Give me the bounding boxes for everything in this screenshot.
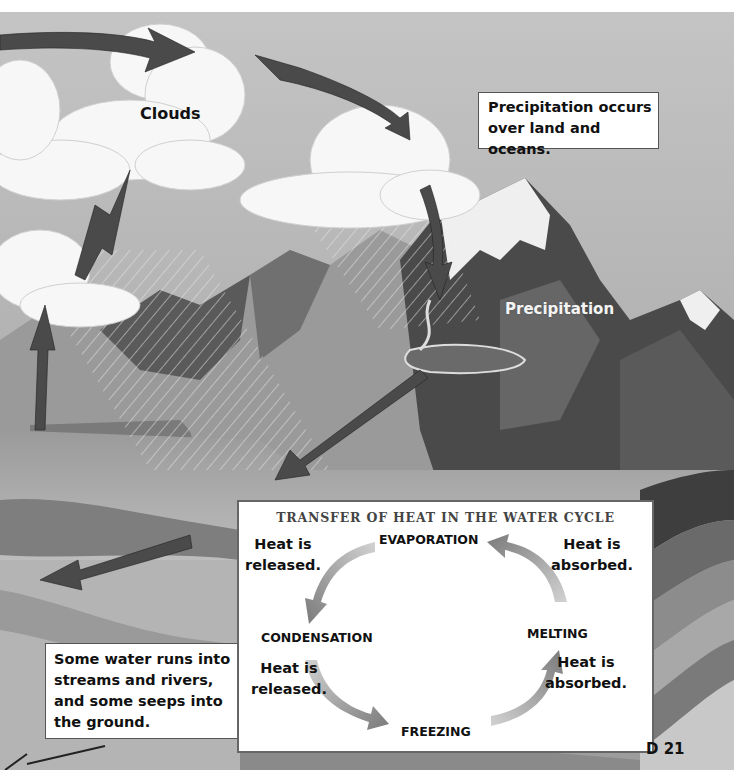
heat-note-line: Heat is <box>545 652 627 673</box>
precipitation-callout: Precipitation occurs over land and ocean… <box>478 92 659 149</box>
stage-melting: MELTING <box>527 626 588 641</box>
heat-note-line: Heat is <box>551 534 633 555</box>
heat-note-line: absorbed. <box>545 673 627 694</box>
heat-note-line: Heat is <box>251 658 327 679</box>
heat-note-evap-to-cond: Heat is released. <box>245 534 321 576</box>
precipitation-label: Precipitation <box>505 300 614 318</box>
runoff-callout: Some water runs into streams and rivers,… <box>45 643 239 739</box>
heat-note-line: released. <box>245 555 321 576</box>
heat-note-cond-to-freeze: Heat is released. <box>251 658 327 700</box>
heat-note-melt-to-evap: Heat is absorbed. <box>551 534 633 576</box>
stage-freezing: FREEZING <box>401 724 471 739</box>
heat-note-line: Heat is <box>245 534 321 555</box>
callout-line: streams and rivers, <box>54 670 232 691</box>
callout-line: over land and oceans. <box>488 118 652 160</box>
stage-condensation: CONDENSATION <box>261 630 373 645</box>
heat-note-freeze-to-melt: Heat is absorbed. <box>545 652 627 694</box>
clouds-label: Clouds <box>140 104 201 123</box>
page-number: D 21 <box>646 740 685 758</box>
heat-note-line: released. <box>251 679 327 700</box>
heat-note-line: absorbed. <box>551 555 633 576</box>
stage-evaporation: EVAPORATION <box>379 532 478 547</box>
callout-line: Some water runs into <box>54 649 232 670</box>
callout-line: the ground. <box>54 712 232 733</box>
heat-transfer-diagram: TRANSFER OF HEAT IN THE WATER CYCLE EVAP… <box>237 500 654 753</box>
callout-line: and some seeps into <box>54 691 232 712</box>
callout-line: Precipitation occurs <box>488 97 652 118</box>
